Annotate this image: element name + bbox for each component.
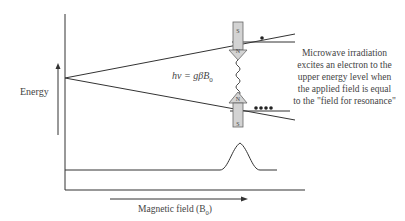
upper-electron xyxy=(260,36,264,40)
field-arrow-head xyxy=(241,197,248,202)
svg-text:S: S xyxy=(236,121,239,127)
magnet-top: S N xyxy=(229,22,247,60)
y-axis-label: Energy xyxy=(20,86,49,97)
svg-text:N: N xyxy=(236,48,241,54)
lower-electron xyxy=(254,106,258,110)
svg-text:N: N xyxy=(236,96,241,102)
svg-text:S: S xyxy=(236,28,239,34)
magnet-bottom: N S xyxy=(229,92,247,127)
x-axis-label: Magnetic field (B0) xyxy=(138,204,212,216)
resonance-equation: hν = gβB0 xyxy=(172,70,213,84)
annotation-text: Microwave irradiation excites an electro… xyxy=(282,47,405,107)
absorption-spectrum xyxy=(65,143,277,170)
lower-electron xyxy=(259,106,263,110)
lower-electron xyxy=(269,106,273,110)
lower-electron xyxy=(264,106,268,110)
energy-arrow-head xyxy=(56,63,61,69)
epr-diagram: S N N S xyxy=(0,0,405,221)
lower-energy-level xyxy=(65,78,295,120)
